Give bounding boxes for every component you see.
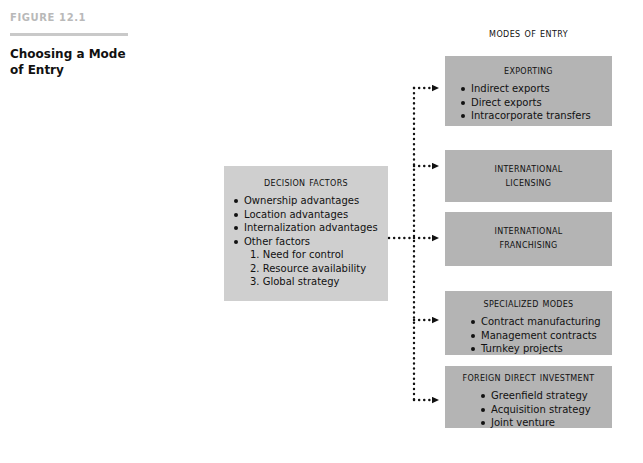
list-item: Direct exports (459, 96, 612, 110)
list-item: Contract manufacturing (469, 315, 612, 329)
list-item: Joint venture (479, 416, 612, 430)
list-item: Acquisition strategy (479, 403, 612, 417)
mode-box-exporting: Exporting Indirect exports Direct export… (445, 56, 612, 126)
mode-box-foreign-direct-investment: Foreign Direct Investment Greenfield str… (445, 366, 612, 428)
list-item: Intracorporate transfers (459, 109, 612, 123)
list-item: 1. Need for control (250, 248, 388, 262)
list-item: Turnkey projects (469, 342, 612, 356)
list-item: 3. Global strategy (250, 275, 388, 289)
mode-box-international-franchising-heading-line2: Franchising (445, 238, 612, 252)
decision-factors-box: Decision Factors Ownership advantages Lo… (224, 166, 388, 301)
list-item: Indirect exports (459, 82, 612, 96)
mode-box-specialized-modes-bullets: Contract manufacturing Management contra… (469, 315, 612, 356)
modes-of-entry-heading: Modes of Entry (445, 27, 612, 40)
list-item: Other factors (232, 235, 388, 249)
list-item: Greenfield strategy (479, 389, 612, 403)
mode-box-specialized-modes: Specialized Modes Contract manufacturing… (445, 291, 612, 355)
decision-factors-bullets: Ownership advantages Location advantages… (232, 194, 388, 248)
mode-box-foreign-direct-investment-heading: Foreign Direct Investment (445, 371, 612, 385)
mode-box-international-licensing-heading-line2: Licensing (445, 176, 612, 190)
list-item: Ownership advantages (232, 194, 388, 208)
mode-box-international-licensing: International Licensing (445, 150, 612, 202)
decision-factors-numbered-list: 1. Need for control 2. Resource availabi… (250, 248, 388, 289)
list-item: Management contracts (469, 329, 612, 343)
decision-factors-heading: Decision Factors (224, 176, 388, 190)
mode-box-exporting-bullets: Indirect exports Direct exports Intracor… (459, 82, 612, 123)
list-item: Internalization advantages (232, 221, 388, 235)
mode-box-international-licensing-heading-line1: International (445, 162, 612, 176)
mode-of-entry-diagram: Modes of Entry Decision Factors Ownershi… (0, 0, 643, 463)
list-item: 2. Resource availability (250, 262, 388, 276)
mode-box-exporting-heading: Exporting (445, 64, 612, 78)
mode-box-specialized-modes-heading: Specialized Modes (445, 297, 612, 311)
list-item: Location advantages (232, 208, 388, 222)
mode-box-international-franchising: International Franchising (445, 212, 612, 266)
mode-box-foreign-direct-investment-bullets: Greenfield strategy Acquisition strategy… (479, 389, 612, 430)
mode-box-international-franchising-heading-line1: International (445, 224, 612, 238)
